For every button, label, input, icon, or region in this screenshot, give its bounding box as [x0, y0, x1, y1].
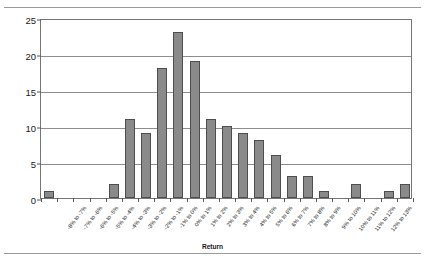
bar-slot	[90, 20, 106, 198]
bar	[238, 133, 248, 198]
y-tick-label: 5	[31, 159, 36, 170]
bar-slot	[348, 20, 364, 198]
bar	[141, 133, 151, 198]
x-tick-mark	[138, 198, 139, 202]
bar	[384, 191, 394, 198]
x-tick-mark	[90, 198, 91, 202]
x-tick-mark	[154, 198, 155, 202]
bar-slot	[106, 20, 122, 198]
x-tick-mark	[235, 198, 236, 202]
bar-slot	[138, 20, 154, 198]
top-divider-rule	[4, 7, 421, 8]
histogram-figure: 0510152025 Frequency -8% to -7%-7% to -6…	[0, 0, 425, 262]
x-tick-mark	[203, 198, 204, 202]
bar	[319, 191, 329, 198]
bar-slot	[300, 20, 316, 198]
bar-slot	[219, 20, 235, 198]
plot-area: 0510152025	[40, 19, 412, 199]
y-tick-label: 10	[25, 123, 36, 134]
x-tick-mark	[73, 198, 74, 202]
x-tick-mark	[170, 198, 171, 202]
bar	[206, 119, 216, 198]
bar-slot	[73, 20, 89, 198]
bar-slot	[57, 20, 73, 198]
x-tick-mark	[219, 198, 220, 202]
bar-slot	[251, 20, 267, 198]
bar	[303, 176, 313, 198]
x-tick-mark	[364, 198, 365, 202]
bar-slot	[41, 20, 57, 198]
x-tick-mark	[57, 198, 58, 202]
bottom-divider-rule	[4, 253, 421, 254]
bar-slot	[284, 20, 300, 198]
x-tick-mark	[41, 198, 42, 202]
bars-group	[41, 20, 411, 198]
bar	[44, 191, 54, 198]
x-tick-mark	[300, 198, 301, 202]
x-tick-mark	[187, 198, 188, 202]
bar	[400, 184, 410, 198]
bar-slot	[364, 20, 380, 198]
bar	[351, 184, 361, 198]
bar-slot	[170, 20, 186, 198]
bar	[254, 140, 264, 198]
x-tick-mark	[251, 198, 252, 202]
bar	[222, 126, 232, 198]
x-tick-mark	[122, 198, 123, 202]
bar-slot	[235, 20, 251, 198]
y-tick-label: 20	[25, 51, 36, 62]
y-tick-label: 15	[25, 87, 36, 98]
bar-slot	[381, 20, 397, 198]
bar	[190, 61, 200, 198]
x-tick-mark	[267, 198, 268, 202]
y-tick-label: 0	[31, 195, 36, 206]
x-axis-title: Return	[0, 243, 425, 250]
x-tick-mark	[397, 198, 398, 202]
bar	[173, 32, 183, 198]
x-tick-mark	[413, 198, 414, 202]
x-tick-mark	[332, 198, 333, 202]
bar-slot	[203, 20, 219, 198]
x-tick-mark	[381, 198, 382, 202]
bar	[271, 155, 281, 198]
bar-slot	[397, 20, 413, 198]
x-tick-mark	[316, 198, 317, 202]
bar-slot	[332, 20, 348, 198]
bar	[125, 119, 135, 198]
y-tick-label: 25	[25, 15, 36, 26]
x-tick-mark	[106, 198, 107, 202]
bar	[157, 68, 167, 198]
bar-slot	[316, 20, 332, 198]
x-tick-mark	[284, 198, 285, 202]
bar-slot	[267, 20, 283, 198]
x-tick-mark	[348, 198, 349, 202]
bar-slot	[154, 20, 170, 198]
bar	[287, 176, 297, 198]
bar-slot	[122, 20, 138, 198]
bar-slot	[187, 20, 203, 198]
bar	[109, 184, 119, 198]
